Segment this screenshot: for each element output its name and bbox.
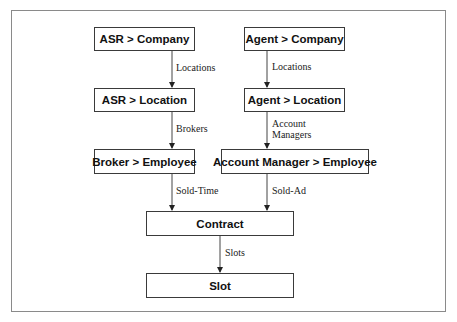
edge-label-slots: Slots [225,247,245,258]
edge-label-sold-ad: Sold-Ad [272,185,306,196]
node-asr-company: ASR > Company [94,27,195,51]
node-label: Broker > Employee [92,156,197,168]
node-label: Slot [209,280,231,292]
node-asr-location: ASR > Location [94,88,195,112]
edge-label-line: Managers [272,129,311,140]
node-label: Account Manager > Employee [213,156,377,168]
node-label: Agent > Location [248,94,342,106]
node-label: Contract [196,218,243,230]
node-agent-company: Agent > Company [244,27,345,51]
node-contract: Contract [146,211,294,236]
edge-label-locations-asr: Locations [176,62,215,73]
edge-label-line: Account [272,118,311,129]
edge-label-sold-time: Sold-Time [176,185,218,196]
node-agent-location: Agent > Location [244,88,345,112]
node-account-manager-employee: Account Manager > Employee [221,149,369,174]
edge-label-brokers: Brokers [176,123,208,134]
edge-label-account-managers: Account Managers [272,118,311,140]
node-label: ASR > Location [102,94,187,106]
edge-label-locations-agent: Locations [272,61,311,72]
node-label: Agent > Company [245,33,343,45]
node-slot: Slot [146,273,294,298]
node-label: ASR > Company [100,33,190,45]
node-broker-employee: Broker > Employee [94,149,195,174]
